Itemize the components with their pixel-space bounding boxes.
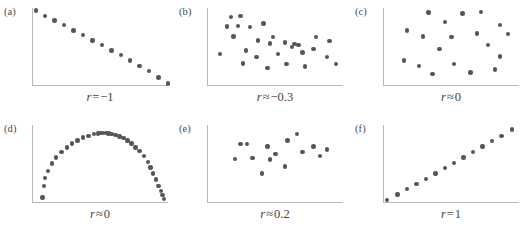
data-point [300, 150, 304, 154]
data-point [325, 55, 329, 59]
data-point [142, 154, 146, 158]
data-point [468, 70, 472, 74]
data-point [285, 138, 289, 142]
data-point [256, 38, 260, 42]
data-point [231, 34, 235, 38]
data-point [421, 34, 425, 38]
data-point [276, 52, 280, 56]
data-point [119, 53, 123, 57]
data-point [452, 62, 456, 66]
panel-letter: (c) [355, 6, 367, 17]
caption-symbol: r [257, 90, 262, 104]
panel-letter: (f) [355, 123, 366, 134]
data-point [90, 38, 94, 42]
scatter-points [33, 125, 168, 202]
caption-value: −1 [100, 90, 113, 104]
data-point [238, 142, 242, 146]
data-point [54, 155, 58, 159]
data-point [128, 58, 132, 62]
data-point [245, 142, 249, 146]
panel-letter: (b) [179, 6, 192, 17]
data-point [334, 62, 338, 66]
data-point [449, 35, 453, 39]
panel-f: (f) r=1 [351, 117, 526, 233]
caption-value: 0 [455, 90, 461, 104]
plot-area [32, 125, 168, 203]
data-point [265, 66, 269, 70]
data-point [254, 55, 258, 59]
data-point [147, 69, 151, 73]
data-point [154, 177, 158, 181]
panel-d: (d) r≈0 [0, 117, 175, 233]
data-point [261, 21, 265, 25]
data-point [460, 11, 464, 15]
data-point [268, 157, 272, 161]
data-point [284, 62, 288, 66]
data-point [395, 192, 399, 196]
data-point [43, 176, 47, 180]
data-point [461, 155, 465, 159]
data-point [273, 152, 277, 156]
data-point [506, 32, 510, 36]
caption-operator: = [446, 207, 455, 221]
caption-operator: ≈ [446, 90, 455, 104]
data-point [452, 161, 456, 165]
data-point [40, 195, 44, 199]
data-point [325, 147, 329, 151]
caption-operator: ≈ [265, 207, 274, 221]
data-point [295, 132, 299, 136]
scatter-points [384, 8, 519, 85]
panel-e: (e) r≈0.2 [175, 117, 350, 233]
data-point [405, 28, 409, 32]
plot-area [207, 8, 343, 86]
data-point [162, 197, 166, 201]
data-point [70, 141, 74, 145]
data-point [426, 10, 430, 14]
panel-caption: r≈0.2 [207, 207, 343, 222]
data-point [327, 39, 331, 43]
plot-area [32, 8, 168, 86]
data-point [225, 24, 229, 28]
plot-area [383, 125, 519, 203]
data-point [424, 177, 428, 181]
data-point [42, 184, 46, 188]
data-point [268, 41, 272, 45]
data-point [498, 54, 502, 58]
data-point [148, 165, 152, 169]
data-point [296, 43, 300, 47]
panel-caption: r≈0 [383, 90, 519, 105]
scatter-points [384, 125, 519, 202]
data-point [248, 25, 252, 29]
scatter-points [33, 8, 168, 85]
panel-caption: r=−1 [32, 90, 168, 105]
caption-value: 1 [455, 207, 461, 221]
data-point [417, 64, 421, 68]
correlation-scatter-figure: (a) r=−1 (b) r≈−0.3 (c) r≈0 (d) r≈0 [0, 0, 526, 233]
data-point [510, 127, 514, 131]
data-point [81, 135, 85, 139]
data-point [265, 144, 269, 148]
data-point [493, 67, 497, 71]
data-point [499, 134, 503, 138]
data-point [490, 139, 494, 143]
data-point [137, 64, 141, 68]
data-point [229, 15, 233, 19]
data-point [52, 18, 56, 22]
data-point [109, 48, 113, 52]
data-point [283, 164, 287, 168]
data-point [414, 182, 418, 186]
data-point [311, 47, 315, 51]
scatter-points [208, 125, 343, 202]
data-point [405, 187, 409, 191]
data-point [433, 171, 437, 175]
data-point [443, 166, 447, 170]
data-point [62, 23, 66, 27]
data-point [50, 161, 54, 165]
data-point [260, 171, 264, 175]
data-point [443, 20, 447, 24]
data-point [156, 75, 160, 79]
data-point [471, 150, 475, 154]
data-point [218, 52, 222, 56]
caption-operator: ≈ [95, 207, 104, 221]
data-point [65, 145, 69, 149]
